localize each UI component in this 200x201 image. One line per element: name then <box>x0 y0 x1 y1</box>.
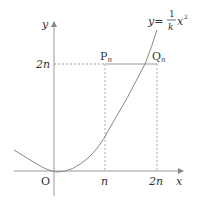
curve-equation-label: y= 1 k x 2 <box>147 9 188 32</box>
tick-x-2n: 2n <box>148 175 163 188</box>
svg-text:y=: y= <box>147 15 163 28</box>
x-axis-label: x <box>176 175 183 188</box>
graph: y x O n 2n 2n Pn Qn y= 1 k x 2 <box>0 0 200 201</box>
point-Q-label: Qn <box>152 50 166 64</box>
tick-x-n: n <box>101 175 108 188</box>
point-P-label: Pn <box>100 50 112 64</box>
svg-text:2: 2 <box>184 13 188 20</box>
svg-text:x: x <box>177 15 184 28</box>
svg-text:1: 1 <box>169 9 175 19</box>
y-axis-label: y <box>41 18 49 31</box>
svg-text:k: k <box>168 22 173 32</box>
origin-label: O <box>41 175 50 188</box>
parabola-curve <box>14 30 157 172</box>
tick-y-2n: 2n <box>35 58 50 71</box>
